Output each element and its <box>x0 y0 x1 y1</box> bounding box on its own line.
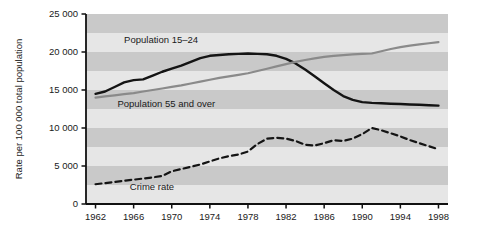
y-axis-tick-label: 25 000 <box>49 8 78 19</box>
y-axis-tick-label: 15 000 <box>49 84 78 95</box>
x-axis-tick-label: 1970 <box>161 211 182 222</box>
y-axis-title-text: Rate per 100 000 total population <box>13 39 24 180</box>
y-axis-tick-label: 5 000 <box>54 160 78 171</box>
y-axis-title: Rate per 100 000 total population <box>13 39 24 180</box>
plot-band <box>86 14 448 33</box>
x-axis-tick-label: 1962 <box>85 211 106 222</box>
x-axis-tick-label: 1974 <box>199 211 220 222</box>
chart-figure: 05 00010 00015 00020 00025 0001962196619… <box>0 0 481 242</box>
plot-band <box>86 128 448 147</box>
line-chart: 05 00010 00015 00020 00025 0001962196619… <box>0 0 481 242</box>
y-axis-tick-label: 20 000 <box>49 46 78 57</box>
y-axis-tick-label: 10 000 <box>49 122 78 133</box>
x-axis-tick-label: 1986 <box>314 211 335 222</box>
x-axis-tick-label: 1998 <box>428 211 449 222</box>
x-axis-tick-label: 1982 <box>275 211 296 222</box>
x-axis-tick-label: 1966 <box>123 211 144 222</box>
series-annotation: Crime rate <box>130 181 174 192</box>
x-axis-tick-label: 1978 <box>237 211 258 222</box>
x-axis-tick-label: 1994 <box>390 211 411 222</box>
series-annotation: Population 55 and over <box>117 98 215 109</box>
y-axis-tick-label: 0 <box>73 198 78 209</box>
x-axis-tick-label: 1990 <box>352 211 373 222</box>
series-annotation: Population 15–24 <box>124 34 198 45</box>
